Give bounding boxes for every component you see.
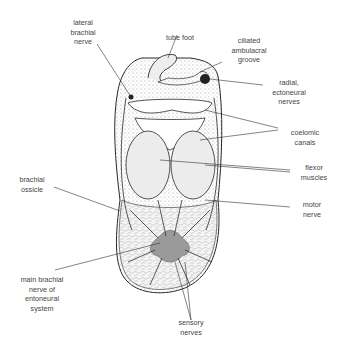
label-coelomic-canals: coelomic canals	[282, 128, 328, 147]
label-flexor-muscles: flexor muscles	[292, 163, 336, 182]
flexor-muscle-left	[126, 131, 170, 199]
label-radial-ectoneural-nerves: radial, ectoneural nerves	[264, 78, 314, 107]
radial-nerve-dot	[200, 74, 210, 84]
label-brachial-ossicle: brachial ossicle	[12, 175, 52, 194]
label-motor-nerve: motor nerve	[292, 200, 332, 219]
label-sensory-nerves: sensory nerves	[168, 318, 214, 337]
label-lateral-brachial-nerve: lateral brachial nerve	[58, 18, 108, 47]
label-main-brachial-nerve: main brachial nerve of entoneural system	[12, 275, 72, 313]
label-ciliated-ambulacral-groove: ciliated ambulacral groove	[224, 36, 274, 65]
label-tube-foot: tube foot	[157, 33, 203, 43]
